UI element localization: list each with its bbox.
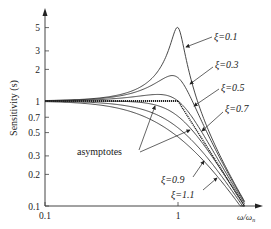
y-tick-label: 5 xyxy=(35,23,40,33)
y-tick-label: 3 xyxy=(35,46,40,56)
y-axis-arrow-icon xyxy=(43,8,48,16)
label-zeta-0-7: ξ=0.7 xyxy=(225,103,250,115)
label-zeta-0-1: ξ=0.1 xyxy=(214,31,238,43)
label-zeta-0-3: ξ=0.3 xyxy=(215,59,239,71)
y-tick-label: 0.1 xyxy=(28,202,40,212)
label-zeta-0-9: ξ=0.9 xyxy=(161,174,185,186)
curves xyxy=(45,27,245,206)
label-zeta-0-5: ξ=0.5 xyxy=(221,82,245,94)
y-tick-label: 2 xyxy=(35,65,40,75)
y-tick-label: 0.2 xyxy=(28,170,40,180)
x-tick-label: 0.1 xyxy=(39,211,51,221)
sensitivity-chart: 0.10.20.30.50.71235 0.11 Sensitivity (s)… xyxy=(0,0,271,229)
x-tick-label: 1 xyxy=(176,211,181,221)
y-tick-label: 0.3 xyxy=(28,151,40,161)
y-axis xyxy=(43,8,48,206)
x-axis-arrow-icon xyxy=(255,204,263,209)
y-axis-label: Sensitivity (s) xyxy=(8,80,20,136)
y-ticks: 0.10.20.30.50.71235 xyxy=(28,23,49,211)
x-axis xyxy=(45,204,263,209)
x-axis-label: ω/ωn xyxy=(237,212,255,223)
y-tick-label: 1 xyxy=(35,97,40,107)
x-ticks: 0.11 xyxy=(39,202,181,221)
annotations: ξ=0.1 ξ=0.3 ξ=0.5 ξ=0.7 ξ=0.9 ξ=1.1 asym… xyxy=(77,31,250,201)
curve-ξ=0.5 xyxy=(45,94,245,203)
label-asymptotes: asymptotes xyxy=(77,146,122,157)
label-zeta-1-1: ξ=1.1 xyxy=(171,189,195,201)
y-tick-label: 0.7 xyxy=(28,113,40,123)
y-tick-label: 0.5 xyxy=(28,128,40,138)
curve-ξ=0.3 xyxy=(45,76,245,203)
curve-ξ=0.1 xyxy=(45,27,245,201)
